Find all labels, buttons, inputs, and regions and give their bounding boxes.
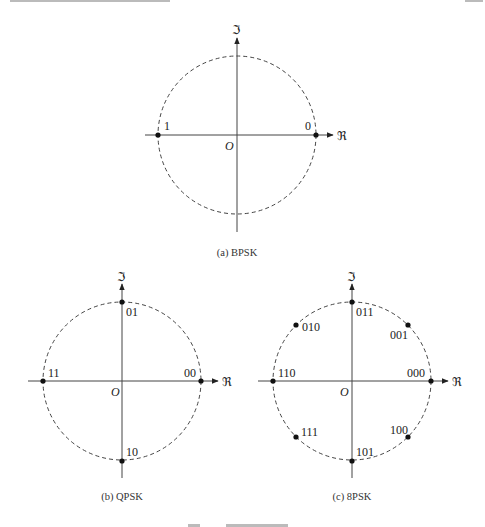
imag-axis-label: ℑ bbox=[232, 23, 240, 37]
constellation-point bbox=[119, 458, 124, 463]
constellation-point bbox=[293, 322, 298, 327]
point-label: 100 bbox=[390, 423, 408, 437]
point-label: 10 bbox=[126, 445, 138, 459]
real-axis-label: ℜ bbox=[337, 129, 347, 143]
constellation-point bbox=[40, 378, 45, 383]
panel-8psk: ℑ ℜ O 000 001 011 010 110 111 101 100 (c… bbox=[258, 270, 462, 503]
constellation-point bbox=[155, 132, 160, 137]
point-label: 11 bbox=[48, 366, 60, 380]
imag-axis-label: ℑ bbox=[117, 270, 125, 284]
point-label: 111 bbox=[301, 425, 318, 439]
constellation-point bbox=[198, 378, 203, 383]
constellation-point bbox=[313, 132, 318, 137]
origin-label: O bbox=[111, 385, 120, 399]
constellation-point bbox=[405, 322, 410, 327]
constellation-point bbox=[293, 434, 298, 439]
point-label: 0 bbox=[305, 119, 311, 133]
panel-caption: (c) 8PSK bbox=[333, 491, 372, 503]
constellation-figure: ℑ ℜ O 0 1 (a) BPSK ℑ ℜ O 00 01 11 10 (b)… bbox=[0, 0, 485, 527]
real-axis-label: ℜ bbox=[222, 375, 232, 389]
point-label: 00 bbox=[184, 366, 196, 380]
origin-label: O bbox=[225, 139, 234, 153]
panel-qpsk: ℑ ℜ O 00 01 11 10 (b) QPSK bbox=[28, 270, 232, 503]
point-label: 011 bbox=[356, 305, 374, 319]
constellation-point bbox=[349, 458, 354, 463]
point-label: 001 bbox=[390, 328, 408, 342]
panel-caption: (b) QPSK bbox=[101, 491, 143, 503]
real-axis-label: ℜ bbox=[452, 375, 462, 389]
constellation-point bbox=[119, 299, 124, 304]
point-label: 110 bbox=[278, 366, 296, 380]
point-label: 000 bbox=[407, 366, 425, 380]
panel-bpsk: ℑ ℜ O 0 1 (a) BPSK bbox=[145, 23, 347, 259]
header-fragment bbox=[10, 0, 483, 2]
origin-label: O bbox=[340, 385, 349, 399]
point-label: 101 bbox=[356, 445, 374, 459]
point-label: 01 bbox=[126, 305, 138, 319]
point-label: 010 bbox=[302, 320, 320, 334]
imag-axis-label: ℑ bbox=[347, 270, 355, 284]
constellation-point bbox=[349, 299, 354, 304]
constellation-point bbox=[428, 378, 433, 383]
constellation-point bbox=[270, 378, 275, 383]
panel-caption: (a) BPSK bbox=[217, 247, 258, 259]
point-label: 1 bbox=[164, 119, 170, 133]
